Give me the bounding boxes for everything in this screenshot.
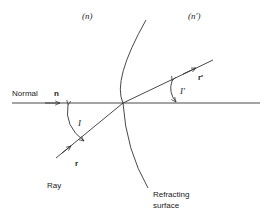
surface-label-line2: surface [153,201,180,210]
incident-angle-label: I [77,118,82,128]
ray-label: Ray [47,181,61,190]
refracted-ray-arrow-icon [183,68,196,74]
incident-ray-vector-label: r [75,159,78,168]
refracting-surface-curve [120,20,148,188]
incident-ray-arrow-icon [62,146,71,153]
surface-label-line1: Refracting [153,190,189,199]
refraction-diagram: (n) (n′) Normal n r Ray I r′ I′ Refracti… [0,0,268,221]
right-medium-index-label: (n′) [188,11,200,21]
normal-label: Normal [12,89,38,98]
refraction-angle-label: I′ [179,86,186,96]
incident-angle-arc-icon [67,105,84,141]
left-medium-index-label: (n) [82,11,93,21]
refracted-ray-vector-label: r′ [198,73,203,82]
refraction-angle-arc-icon [171,81,176,102]
normal-vector-label: n [54,89,59,98]
